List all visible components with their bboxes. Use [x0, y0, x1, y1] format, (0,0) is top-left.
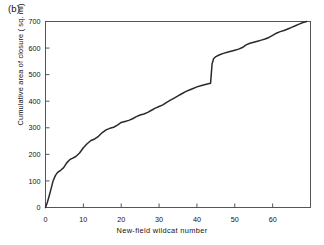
- x-tick-label: 0: [36, 215, 56, 224]
- y-tick-label: 300: [17, 123, 41, 132]
- x-tick-label: 60: [263, 215, 283, 224]
- y-tick-label: 600: [17, 44, 41, 53]
- x-tick-label: 10: [73, 215, 93, 224]
- x-tick-label: 40: [187, 215, 207, 224]
- x-tick-label: 50: [225, 215, 245, 224]
- x-axis-label: New-field wildcat number: [0, 226, 324, 235]
- x-tick-label: 20: [111, 215, 131, 224]
- y-tick-label: 400: [17, 97, 41, 106]
- figure-panel-b: (b) Cumulative area of closure ( sq. mi)…: [0, 0, 324, 245]
- y-tick-label: 700: [17, 17, 41, 26]
- y-tick-label: 500: [17, 70, 41, 79]
- y-tick-label: 200: [17, 150, 41, 159]
- chart-plot-area: [0, 0, 324, 245]
- y-tick-label: 100: [17, 177, 41, 186]
- y-tick-label: 0: [17, 203, 41, 212]
- x-tick-label: 30: [149, 215, 169, 224]
